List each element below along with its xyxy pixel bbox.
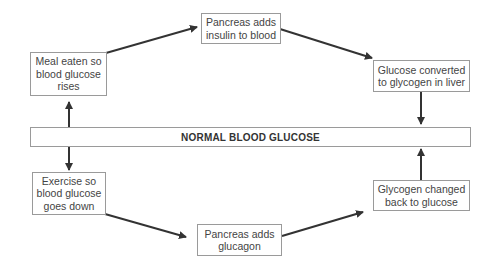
node-glucose-to-glycogen: Glucose converted to glycogen in liver — [373, 60, 470, 92]
node-glycogen-to-glucose-label: Glycogen changed back to glucose — [378, 183, 466, 208]
arrow-glucagon-to-glycogen — [282, 212, 363, 236]
node-glucagon-label: Pancreas adds glucagon — [204, 228, 274, 253]
node-exercise-label: Exercise so blood glucose goes down — [37, 175, 102, 213]
node-glucose-to-glycogen-label: Glucose converted to glycogen in liver — [378, 64, 466, 89]
arrow-meal-to-insulin — [106, 27, 197, 53]
node-glucagon: Pancreas adds glucagon — [197, 224, 282, 256]
arrow-insulin-to-glucose — [280, 29, 372, 58]
normal-blood-glucose-bar: NORMAL BLOOD GLUCOSE — [30, 127, 471, 147]
normal-blood-glucose-label: NORMAL BLOOD GLUCOSE — [181, 132, 320, 143]
node-meal-label: Meal eaten so blood glucose rises — [36, 55, 102, 93]
node-exercise: Exercise so blood glucose goes down — [32, 172, 106, 215]
node-insulin-label: Pancreas adds insulin to blood — [206, 16, 276, 41]
arrow-exercise-to-glucagon — [105, 214, 186, 237]
node-insulin: Pancreas adds insulin to blood — [201, 13, 281, 44]
node-meal: Meal eaten so blood glucose rises — [30, 52, 107, 96]
node-glycogen-to-glucose: Glycogen changed back to glucose — [373, 180, 470, 211]
